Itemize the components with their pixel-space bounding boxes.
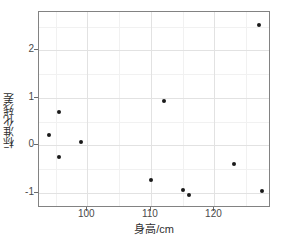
x-axis-tick-label: 110: [142, 209, 158, 219]
data-point: [79, 140, 83, 144]
gridline-minor-vertical: [183, 12, 184, 206]
gridline-minor-vertical: [246, 12, 247, 206]
data-point: [57, 155, 61, 159]
x-axis-title: 身高/cm: [38, 220, 270, 236]
scatter-chart: 标准化残差 -1012 100110120 身高/cm: [0, 0, 286, 240]
gridline-major-horizontal: [39, 145, 269, 146]
gridline-major-horizontal: [39, 193, 269, 194]
y-axis-tick-label: -1: [12, 187, 34, 197]
data-point: [187, 193, 191, 197]
x-axis-tick-label: 120: [205, 209, 222, 219]
gridline-minor-horizontal: [39, 169, 269, 170]
y-axis-tick-label: 0: [12, 139, 34, 149]
data-point: [257, 23, 261, 27]
gridline-major-horizontal: [39, 98, 269, 99]
data-point: [162, 99, 166, 103]
y-axis-tick-label: 2: [12, 44, 34, 54]
gridline-minor-vertical: [119, 12, 120, 206]
gridline-minor-horizontal: [39, 74, 269, 75]
x-axis-tick-label: 100: [78, 209, 95, 219]
data-point: [232, 162, 236, 166]
gridline-major-vertical: [214, 12, 215, 206]
y-axis-tick-labels: -1012: [8, 0, 34, 240]
data-point: [47, 133, 51, 137]
data-point: [149, 178, 153, 182]
gridline-minor-vertical: [56, 12, 57, 206]
data-point: [260, 189, 264, 193]
gridline-minor-horizontal: [39, 122, 269, 123]
y-axis-tick-label: 1: [12, 92, 34, 102]
data-point: [57, 110, 61, 114]
gridline-major-vertical: [87, 12, 88, 206]
plot-panel: [38, 11, 270, 207]
gridline-minor-horizontal: [39, 27, 269, 28]
gridline-major-horizontal: [39, 50, 269, 51]
data-point: [181, 188, 185, 192]
